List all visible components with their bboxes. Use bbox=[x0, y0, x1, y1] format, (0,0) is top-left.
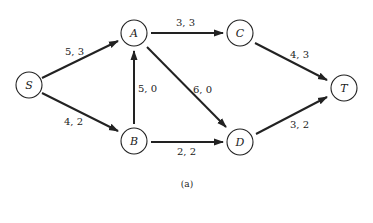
node-a-label: A bbox=[129, 27, 138, 40]
edge-label-b-a: 5, 0 bbox=[138, 83, 157, 94]
edge-label-a-d: 6, 0 bbox=[193, 84, 212, 95]
edge-a-d bbox=[147, 47, 226, 127]
node-a: A bbox=[121, 20, 147, 46]
flow-network-diagram: 5, 3 4, 2 3, 3 6, 0 5, 0 2, 2 4, 3 3, 2 … bbox=[0, 0, 373, 223]
node-c: C bbox=[227, 20, 253, 46]
node-d: D bbox=[227, 129, 253, 155]
edge-label-s-b: 4, 2 bbox=[64, 116, 83, 127]
edge-label-a-c: 3, 3 bbox=[176, 17, 195, 28]
node-s-label: S bbox=[25, 79, 33, 92]
edge-a-d-arrow bbox=[147, 47, 226, 127]
node-b: B bbox=[121, 128, 147, 154]
node-t: T bbox=[331, 75, 357, 101]
node-c-label: C bbox=[236, 27, 245, 40]
edge-label-c-t: 4, 3 bbox=[290, 49, 309, 60]
figure-caption: (a) bbox=[181, 179, 193, 189]
node-d-label: D bbox=[235, 136, 245, 149]
node-b-label: B bbox=[129, 135, 138, 148]
node-s: S bbox=[16, 72, 42, 98]
edge-label-d-t: 3, 2 bbox=[290, 119, 309, 130]
edge-label-b-d: 2, 2 bbox=[177, 146, 196, 157]
edge-label-s-a: 5, 3 bbox=[65, 46, 84, 57]
